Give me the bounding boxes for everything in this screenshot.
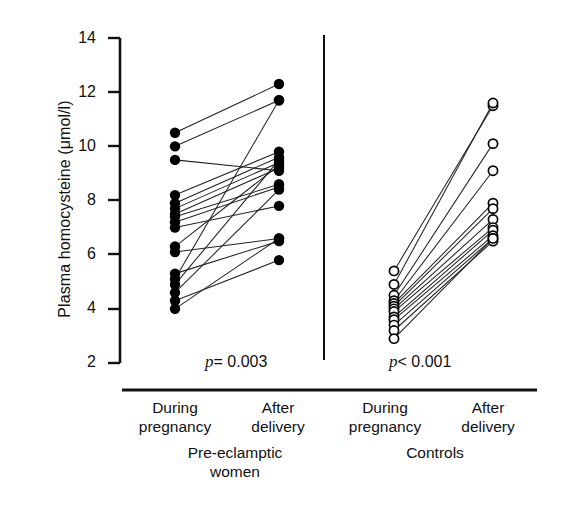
pair-connector-line <box>175 163 279 209</box>
data-point-marker <box>274 79 284 89</box>
p-value-controls: p< 0.001 <box>389 352 451 372</box>
pair-connector-line <box>175 165 279 246</box>
data-point-marker <box>389 266 398 275</box>
data-point-marker <box>389 280 398 289</box>
data-point-marker <box>488 98 497 107</box>
pair-connector-line <box>394 228 493 312</box>
group-label-controls: Controls <box>340 443 530 462</box>
x-category-label-1: During pregnancy <box>120 398 230 436</box>
group-label-1-line2: women <box>140 462 330 481</box>
data-point-marker <box>274 201 284 211</box>
x-category-4-line2: delivery <box>438 417 538 436</box>
series-controls <box>389 98 497 343</box>
p-value-pre-eclamptic: p= 0.003 <box>205 352 267 372</box>
data-point-marker <box>488 204 497 213</box>
pair-connector-line <box>175 100 279 146</box>
data-point-marker <box>274 155 284 165</box>
scatter-plot-canvas <box>0 0 570 517</box>
x-category-label-3: During pregnancy <box>330 398 440 436</box>
data-point-marker <box>170 141 180 151</box>
series-pre-eclamptic <box>170 79 284 314</box>
y-axis-spine <box>108 38 120 363</box>
pair-connector-line <box>175 238 279 308</box>
x-category-label-2: After delivery <box>228 398 328 436</box>
data-point-marker <box>274 255 284 265</box>
p-italic-left: p <box>205 352 214 371</box>
group-label-1-line1: Pre-eclamptic <box>140 443 330 462</box>
data-point-marker <box>488 166 497 175</box>
data-point-marker <box>274 184 284 194</box>
pair-connector-line <box>394 241 493 330</box>
group-label-pre-eclamptic: Pre-eclamptic women <box>140 443 330 481</box>
figure-container: Plasma homocysteine (μmol/l) 14 12 10 8 … <box>0 0 570 517</box>
data-point-marker <box>170 304 180 314</box>
pair-connector-line <box>175 157 279 203</box>
data-point-marker <box>488 139 497 148</box>
pair-connector-line <box>394 230 493 317</box>
data-point-marker <box>488 234 497 243</box>
pair-connector-line <box>394 219 493 308</box>
x-category-1-line1: During <box>120 398 230 417</box>
group-label-2-line1: Controls <box>340 443 530 462</box>
pair-connector-line <box>175 241 279 274</box>
data-point-marker <box>170 222 180 232</box>
data-point-marker <box>170 128 180 138</box>
data-point-marker <box>170 247 180 257</box>
data-point-marker <box>274 95 284 105</box>
pair-connector-line <box>394 236 493 320</box>
pair-connector-line <box>394 144 493 296</box>
x-category-3-line1: During <box>330 398 440 417</box>
data-point-marker <box>274 233 284 243</box>
x-category-4-line1: After <box>438 398 538 417</box>
x-category-2-line1: After <box>228 398 328 417</box>
data-point-marker <box>170 155 180 165</box>
x-category-label-4: After delivery <box>438 398 538 436</box>
p-rest-right: < 0.001 <box>398 353 452 370</box>
p-italic-right: p <box>389 352 398 371</box>
x-category-1-line2: pregnancy <box>120 417 230 436</box>
pair-connector-line <box>175 168 279 214</box>
data-point-marker <box>389 334 398 343</box>
p-rest-left: = 0.003 <box>214 353 268 370</box>
data-series-layer <box>170 79 498 343</box>
x-category-2-line2: delivery <box>228 417 328 436</box>
x-category-3-line2: pregnancy <box>330 417 440 436</box>
pair-connector-line <box>175 84 279 133</box>
